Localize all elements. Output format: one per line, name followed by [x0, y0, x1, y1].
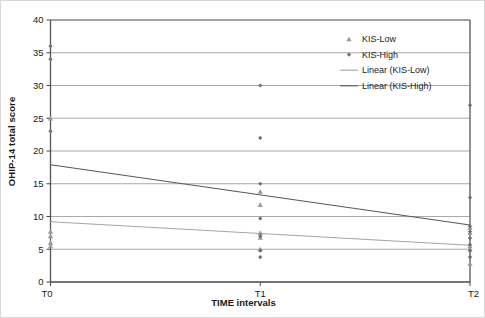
legend-label: KIS-Low: [362, 34, 397, 44]
y-tick-label: 20: [33, 145, 44, 156]
legend-marker: [346, 36, 351, 41]
data-point: [258, 202, 263, 207]
data-point: [468, 195, 472, 199]
legend-label: KIS-High: [362, 50, 398, 60]
x-axis-title: TIME intervals: [1, 297, 485, 308]
y-tick-label: 5: [38, 244, 43, 255]
y-tick-label: 35: [33, 47, 44, 58]
data-point: [468, 236, 472, 240]
y-tick-label: 25: [33, 113, 44, 124]
y-axis-ticks: 0510152025303540: [33, 14, 51, 287]
y-tick-label: 30: [33, 80, 44, 91]
data-point: [258, 83, 262, 87]
gridlines: [51, 20, 471, 282]
data-point: [258, 182, 262, 186]
chart-root: OHIP-14 total score 0510152025303540 T0T…: [0, 0, 485, 318]
data-point: [468, 103, 472, 107]
data-point: [258, 216, 262, 220]
data-point: [258, 255, 262, 259]
data-point: [48, 129, 52, 133]
legend-label: Linear (KIS-High): [362, 81, 432, 91]
data-points: [48, 44, 473, 266]
data-point: [258, 136, 262, 140]
data-point: [48, 57, 52, 61]
data-point: [467, 261, 472, 266]
data-point: [468, 255, 472, 259]
y-tick-label: 40: [33, 14, 44, 25]
data-point: [48, 229, 53, 234]
y-tick-label: 10: [33, 211, 44, 222]
chart-legend: KIS-LowKIS-HighLinear (KIS-Low)Linear (K…: [340, 34, 432, 91]
data-point: [258, 189, 263, 194]
data-point: [48, 44, 52, 48]
legend-label: Linear (KIS-Low): [362, 65, 430, 75]
data-point: [48, 234, 53, 239]
scatter-plot-svg: 0510152025303540 T0T1T2 KIS-LowKIS-HighL…: [1, 1, 485, 318]
y-tick-label: 15: [33, 178, 44, 189]
trendline: [51, 165, 471, 225]
plot-area: 0510152025303540 T0T1T2 KIS-LowKIS-HighL…: [1, 1, 485, 318]
legend-marker: [347, 53, 351, 57]
y-tick-label: 0: [38, 276, 43, 287]
